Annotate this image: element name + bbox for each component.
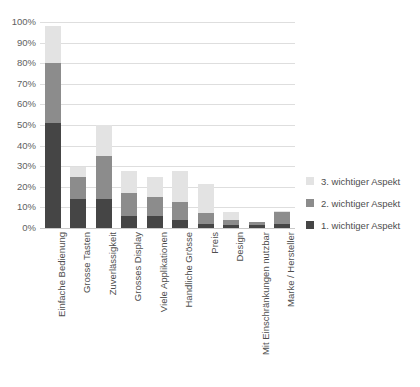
x-axis-tick: Grosse Tasten: [70, 230, 86, 380]
x-axis-tick-label: Mit Einschränkungen nutzbar: [261, 232, 271, 355]
x-axis-tick: Zuverlässigkeit: [96, 230, 112, 380]
y-axis-tick-label: 20%: [0, 182, 36, 192]
y-axis-tick-label: 80%: [0, 58, 36, 68]
legend-label: 3. wichtiger Aspekt: [321, 176, 400, 187]
bar-segment: [223, 212, 239, 220]
bar-stack: [147, 177, 163, 228]
bar-segment: [172, 220, 188, 228]
bar-segment: [70, 199, 86, 228]
legend-swatch-icon: [306, 199, 314, 207]
bar-segment: [70, 177, 86, 200]
bar-segment: [198, 184, 214, 213]
bar-stack: [198, 184, 214, 228]
axis-baseline: [40, 228, 295, 229]
gridline: [40, 146, 295, 147]
bar-segment: [45, 63, 61, 123]
bar-stack: [249, 222, 265, 228]
bar-segment: [121, 216, 137, 228]
x-axis-tick: Viele Applikationen: [147, 230, 163, 380]
x-axis-tick: Marke / Hersteller: [274, 230, 290, 380]
stacked-bar-chart: 0%10%20%30%40%50%60%70%80%90%100% Einfac…: [0, 0, 420, 387]
y-axis-tick-label: 50%: [0, 120, 36, 130]
bar-segment: [147, 197, 163, 216]
gridline: [40, 125, 295, 126]
bar-stack: [274, 211, 290, 228]
bar-stack: [172, 171, 188, 228]
bar-segment: [274, 212, 290, 224]
x-axis-tick: Preis: [198, 230, 214, 380]
bar-segment: [147, 216, 163, 228]
bar-segment: [147, 177, 163, 198]
bar-stack: [45, 26, 61, 228]
legend: 3. wichtiger Aspekt2. wichtiger Aspekt1.…: [306, 171, 418, 237]
bar-segment: [172, 202, 188, 220]
bar-stack: [121, 171, 137, 228]
x-axis-tick-label: Design: [235, 232, 245, 262]
bar-segment: [274, 224, 290, 228]
y-axis-tick-label: 90%: [0, 38, 36, 48]
y-axis-tick-label: 70%: [0, 79, 36, 89]
bar-segment: [198, 213, 214, 224]
y-axis: 0%10%20%30%40%50%60%70%80%90%100%: [0, 22, 36, 228]
legend-item[interactable]: 2. wichtiger Aspekt: [306, 193, 418, 213]
x-axis-tick-label: Grosses Display: [133, 232, 143, 301]
legend-item[interactable]: 1. wichtiger Aspekt: [306, 215, 418, 235]
gridline: [40, 43, 295, 44]
x-axis-tick-label: Preis: [210, 232, 220, 254]
x-axis-tick-label: Marke / Hersteller: [286, 232, 296, 307]
x-axis: Einfache BedienungGrosse TastenZuverläss…: [40, 230, 295, 385]
bar-segment: [96, 125, 112, 156]
y-axis-tick-label: 40%: [0, 141, 36, 151]
x-axis-tick: Einfache Bedienung: [45, 230, 61, 380]
x-axis-tick-label: Viele Applikationen: [159, 232, 169, 312]
legend-swatch-icon: [306, 177, 314, 185]
legend-item[interactable]: 3. wichtiger Aspekt: [306, 171, 418, 191]
bar-stack: [70, 167, 86, 228]
x-axis-tick: Handliche Grösse: [172, 230, 188, 380]
bar-segment: [96, 199, 112, 228]
y-axis-tick-label: 0%: [0, 223, 36, 233]
x-axis-tick-label: Einfache Bedienung: [57, 232, 67, 317]
gridline: [40, 63, 295, 64]
x-axis-tick: Design: [223, 230, 239, 380]
bar-segment: [223, 225, 239, 228]
y-axis-tick-label: 100%: [0, 17, 36, 27]
y-axis-tick-label: 10%: [0, 202, 36, 212]
bar-segment: [96, 156, 112, 199]
bar-segment: [121, 193, 137, 216]
x-axis-tick-label: Handliche Grösse: [184, 232, 194, 308]
gridline: [40, 84, 295, 85]
bar-segment: [121, 171, 137, 193]
x-axis-tick: Grosses Display: [121, 230, 137, 380]
bar-stack: [223, 212, 239, 228]
legend-swatch-icon: [306, 221, 314, 229]
bar-segment: [172, 171, 188, 202]
x-axis-tick-label: Grosse Tasten: [82, 232, 92, 293]
legend-label: 1. wichtiger Aspekt: [321, 220, 400, 231]
legend-label: 2. wichtiger Aspekt: [321, 198, 400, 209]
plot-area: [40, 22, 295, 228]
x-axis-tick-label: Zuverlässigkeit: [108, 232, 118, 295]
bar-segment: [249, 225, 265, 228]
bar-stack: [96, 125, 112, 228]
bar-segment: [70, 167, 86, 176]
bar-segment: [45, 123, 61, 228]
x-axis-tick: Mit Einschränkungen nutzbar: [249, 230, 265, 380]
gridline: [40, 104, 295, 105]
y-axis-tick-label: 60%: [0, 99, 36, 109]
gridline: [40, 22, 295, 23]
y-axis-tick-label: 30%: [0, 161, 36, 171]
bar-segment: [45, 26, 61, 63]
bar-segment: [198, 224, 214, 228]
